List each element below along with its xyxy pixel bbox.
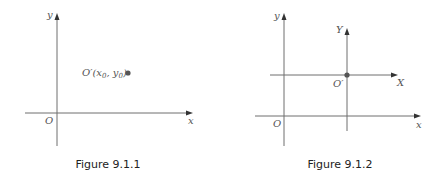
- figure-9-1-2: O x y O′ X Y Figure 9.1.2: [255, 10, 422, 171]
- new-y-axis-arrow-icon: [345, 28, 350, 35]
- figure-caption: Figure 9.1.2: [307, 158, 372, 171]
- x-axis-label: x: [416, 119, 422, 130]
- new-y-axis-label: Y: [336, 24, 344, 35]
- point-o-prime: [344, 72, 349, 77]
- y-axis-arrow-icon: [282, 13, 287, 20]
- new-origin-label: O′: [333, 78, 344, 89]
- origin-label: O: [273, 118, 281, 129]
- y-axis-arrow-icon: [55, 13, 60, 20]
- new-x-axis-label: X: [396, 77, 405, 88]
- origin-label: O: [45, 115, 53, 126]
- y-axis-label: y: [46, 9, 53, 20]
- figure-caption: Figure 9.1.1: [75, 158, 140, 171]
- point-label: O′(x0, y0): [82, 67, 127, 80]
- x-axis-label: x: [188, 115, 194, 126]
- y-axis-label: y: [273, 10, 280, 21]
- x-axis-arrow-icon: [414, 114, 421, 119]
- point-o-prime: [125, 70, 130, 75]
- figure-9-1-1: O x y O′(x0, y0) Figure 9.1.1: [25, 9, 194, 171]
- figure-canvas: O x y O′(x0, y0) Figure 9.1.1 O x y O′ X…: [0, 0, 445, 179]
